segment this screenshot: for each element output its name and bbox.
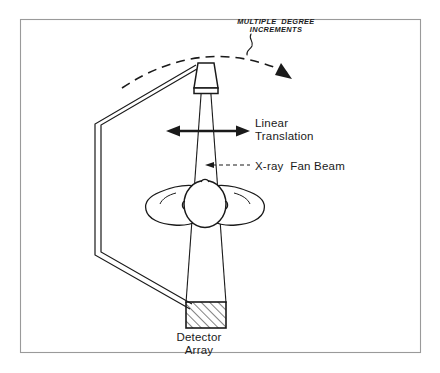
- beam-leader: [205, 162, 250, 168]
- rotation-label: MULTIPLE DEGREEINCREMENTS: [228, 18, 324, 35]
- patient-head: [146, 179, 265, 227]
- ct-scanner-diagram: [0, 0, 440, 373]
- figure-root: MULTIPLE DEGREEINCREMENTS LinearTranslat…: [0, 0, 440, 373]
- detector-array: [186, 302, 226, 328]
- detector-label: DetectorArray: [152, 331, 246, 357]
- translation-label-line1: Linear: [255, 117, 288, 129]
- translation-label-line2: Translation: [255, 130, 314, 142]
- x-ray-tube: [194, 63, 218, 94]
- translation-label: LinearTranslation: [255, 117, 314, 143]
- rotation-label-line2: INCREMENTS: [250, 25, 302, 34]
- beam-label: X-ray Fan Beam: [255, 160, 345, 173]
- detector-label-line1: Detector: [176, 331, 221, 343]
- detector-label-line2: Array: [185, 344, 213, 356]
